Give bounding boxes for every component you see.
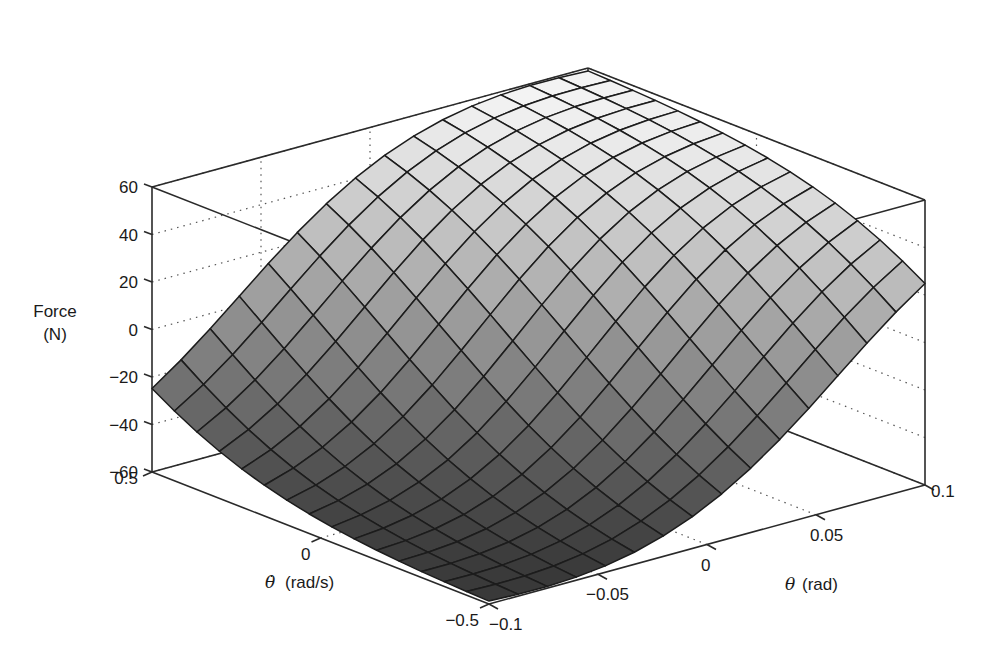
theta-tick <box>489 604 498 609</box>
thetadot-tick <box>143 472 152 476</box>
theta-tick-label: 0.05 <box>810 526 843 545</box>
z-tick-label: 0 <box>129 321 138 340</box>
theta-tick-label: −0.05 <box>586 585 629 604</box>
z-tick-label: −20 <box>109 368 138 387</box>
theta-tick-label: −0.1 <box>489 615 523 634</box>
surface-plot: 6040200−20−40−60−0.500.5−0.1−0.0500.050.… <box>0 0 985 662</box>
thetadot-tick-label: 0.5 <box>114 469 138 488</box>
z-tick <box>144 279 152 282</box>
z-tick-label: 60 <box>119 178 138 197</box>
y-axis-label-symbol: θ̇ <box>265 572 275 592</box>
z-axis-label-unit: (N) <box>43 325 67 344</box>
z-tick <box>144 422 152 425</box>
thetadot-tick <box>480 604 489 608</box>
thetadot-tick <box>312 538 321 542</box>
thetadot-tick-label: −0.5 <box>445 611 479 630</box>
theta-tick <box>816 515 825 520</box>
x-axis-label-symbol: θ <box>785 574 795 594</box>
z-tick <box>144 327 152 330</box>
z-tick-label: 20 <box>119 273 138 292</box>
z-tick <box>144 232 152 235</box>
z-tick <box>144 469 152 472</box>
x-axis-label-unit: (rad) <box>802 575 838 594</box>
z-tick <box>144 374 152 377</box>
theta-tick <box>598 574 607 579</box>
z-axis-label-force: Force <box>33 302 76 321</box>
z-tick-label: 40 <box>119 226 138 245</box>
theta-tick-label: 0 <box>701 556 710 575</box>
z-tick-label: −40 <box>109 416 138 435</box>
theta-tick <box>707 545 716 550</box>
theta-tick-label: 0.1 <box>931 482 955 501</box>
y-axis-label-unit: (rad/s) <box>285 573 334 592</box>
z-tick <box>144 184 152 187</box>
thetadot-tick-label: 0 <box>301 545 310 564</box>
surface-mesh <box>152 71 925 601</box>
